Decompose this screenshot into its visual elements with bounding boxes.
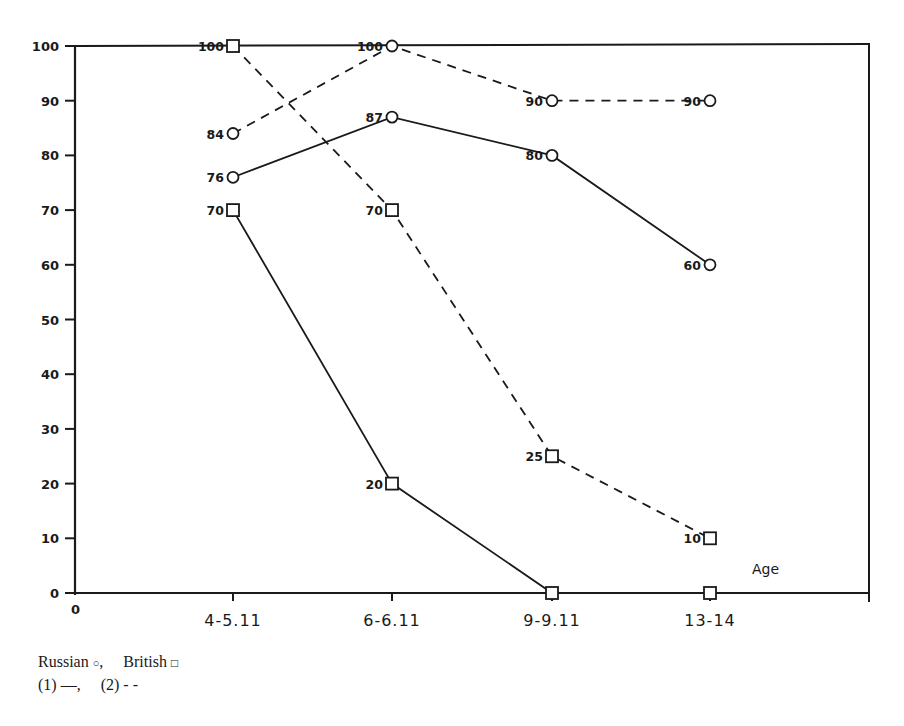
- data-point-label: 70: [366, 203, 384, 218]
- data-point-label: 80: [526, 148, 544, 163]
- legend-solid-line-icon: —: [61, 676, 77, 693]
- data-point-label: 90: [526, 94, 544, 109]
- y-tick-label: 70: [41, 203, 59, 218]
- y-tick-label: 40: [41, 367, 59, 382]
- legend-separator: ,: [77, 676, 81, 693]
- x-origin-label: 0: [71, 602, 80, 617]
- y-tick-label: 100: [32, 39, 59, 54]
- legend-separator: ,: [99, 653, 103, 670]
- legend-british-label: British: [123, 653, 167, 670]
- data-point-label: 90: [684, 94, 702, 109]
- circle-marker-icon: [547, 95, 558, 106]
- legend-line-conditions: (1) —, (2) - -: [38, 674, 178, 696]
- plot-frame: [65, 43, 869, 602]
- legend-russian-label: Russian: [38, 653, 89, 670]
- data-point-label: 100: [198, 39, 224, 54]
- legend-condition-1-label: (1): [38, 676, 57, 693]
- data-point-label: 10: [684, 531, 702, 546]
- legend-square-icon: □: [171, 656, 178, 670]
- data-point-label: 25: [526, 449, 543, 464]
- square-marker-icon: [227, 204, 239, 216]
- y-tick-label: 90: [41, 94, 59, 109]
- square-marker-icon: [704, 587, 716, 599]
- square-marker-icon: [386, 204, 398, 216]
- legend-condition-2-label: (2): [101, 676, 120, 693]
- legend: Russian ○, British □ (1) —, (2) - -: [38, 651, 178, 696]
- circle-marker-icon: [387, 41, 398, 52]
- top-border: [75, 44, 869, 46]
- x-axis: 4-5.116-6.119-9.1113-14: [204, 593, 736, 630]
- data-point-label: 76: [207, 170, 225, 185]
- circle-marker-icon: [228, 128, 239, 139]
- square-marker-icon: [386, 478, 398, 490]
- y-tick-label: 80: [41, 148, 59, 163]
- data-point-label: 84: [207, 127, 225, 142]
- square-marker-icon: [704, 532, 716, 544]
- data-point-label: 70: [207, 203, 225, 218]
- line-chart: 0102030405060708090100 4-5.116-6.119-9.1…: [0, 0, 904, 726]
- legend-line-groups: Russian ○, British □: [38, 651, 178, 674]
- series-line-british-2-: [233, 46, 710, 538]
- series-markers: [227, 40, 716, 599]
- data-point-label: 20: [366, 477, 384, 492]
- y-tick-label: 50: [41, 313, 59, 328]
- data-point-label: 100: [357, 39, 383, 54]
- y-tick-label: 0: [50, 586, 59, 601]
- circle-marker-icon: [705, 95, 716, 106]
- legend-dashed-line-icon: - -: [123, 676, 138, 693]
- y-tick-label: 30: [41, 422, 59, 437]
- x-category-label: 9-9.11: [523, 611, 581, 630]
- data-point-label: 87: [366, 110, 383, 125]
- circle-marker-icon: [228, 172, 239, 183]
- square-marker-icon: [546, 587, 558, 599]
- series-line-british-1-: [233, 210, 710, 593]
- y-tick-label: 10: [41, 531, 59, 546]
- square-marker-icon: [227, 40, 239, 52]
- square-marker-icon: [546, 450, 558, 462]
- series-lines: [233, 46, 710, 593]
- point-labels: 768780608410090907020100702510: [198, 39, 701, 546]
- series-line-russian-1-: [233, 117, 710, 265]
- x-category-label: 13-14: [684, 611, 736, 630]
- circle-marker-icon: [547, 150, 558, 161]
- circle-marker-icon: [387, 112, 398, 123]
- y-axis: 0102030405060708090100: [32, 39, 75, 601]
- y-tick-label: 60: [41, 258, 59, 273]
- circle-marker-icon: [705, 259, 716, 270]
- x-category-label: 6-6.11: [363, 611, 421, 630]
- x-axis-title: Age: [752, 561, 779, 577]
- y-tick-label: 20: [41, 477, 59, 492]
- data-point-label: 60: [684, 258, 702, 273]
- x-category-label: 4-5.11: [204, 611, 262, 630]
